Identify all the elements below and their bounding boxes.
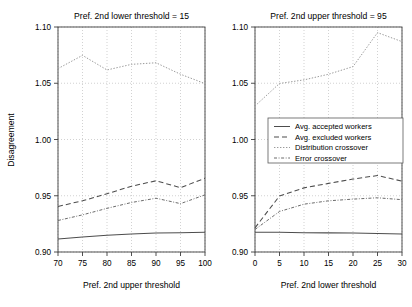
left-series-avg-accepted-workers [58,232,205,239]
right-panel-title: Pref. 2nd upper threshold = 95 [270,11,387,21]
left-panel-vertical-gridlines [58,27,205,252]
y-axis-label: Disagreement [6,113,16,167]
right-ytick-2: 1.00 [232,136,248,145]
right-panel-x-ticks: 0 5 10 15 20 25 30 [253,252,407,268]
right-panel-y-ticks: 0.90 0.95 1.00 1.05 1.10 [232,23,255,257]
legend: Avg. accepted workers Avg. excluded work… [268,118,403,163]
legend-label-2: Distribution crossover [295,143,368,152]
right-ytick-4: 1.10 [232,23,248,32]
left-xtick-1: 75 [78,259,88,268]
left-xtick-6: 100 [198,259,212,268]
figure-container: Disagreement Pref. 2nd lower threshold =… [0,0,412,307]
left-xtick-2: 80 [102,259,112,268]
right-xtick-2: 10 [299,259,309,268]
legend-label-0: Avg. accepted workers [295,122,372,131]
left-panel-title: Pref. 2nd lower threshold = 15 [74,11,189,21]
right-series-avg-accepted-workers [255,232,402,234]
chart-svg: Disagreement Pref. 2nd lower threshold =… [0,0,412,307]
left-xtick-3: 85 [127,259,137,268]
left-xtick-5: 95 [176,259,186,268]
right-ytick-3: 1.05 [232,79,248,88]
right-xtick-3: 15 [324,259,334,268]
left-xtick-4: 90 [151,259,161,268]
left-ytick-1: 0.95 [35,192,51,201]
legend-label-1: Avg. excluded workers [295,133,371,142]
right-xtick-6: 30 [397,259,407,268]
left-xtick-0: 70 [53,259,63,268]
left-ytick-0: 0.90 [35,248,51,257]
right-x-axis-label: Pref. 2nd lower threshold [281,280,377,290]
right-xtick-5: 25 [373,259,383,268]
left-panel-x-ticks: 70 75 80 85 90 95 100 [53,252,212,268]
left-ytick-2: 1.00 [35,136,51,145]
left-x-axis-label: Pref. 2nd upper threshold [83,280,180,290]
left-ytick-4: 1.10 [35,23,51,32]
left-ytick-3: 1.05 [35,79,51,88]
right-xtick-4: 20 [348,259,358,268]
left-panel-y-ticks: 0.90 0.95 1.00 1.05 1.10 [35,23,58,257]
right-ytick-1: 0.95 [232,192,248,201]
right-xtick-0: 0 [253,259,258,268]
right-xtick-1: 5 [277,259,282,268]
left-panel: Pref. 2nd lower threshold = 15 [35,11,212,290]
right-ytick-0: 0.90 [232,248,248,257]
legend-label-3: Error crossover [295,154,347,163]
